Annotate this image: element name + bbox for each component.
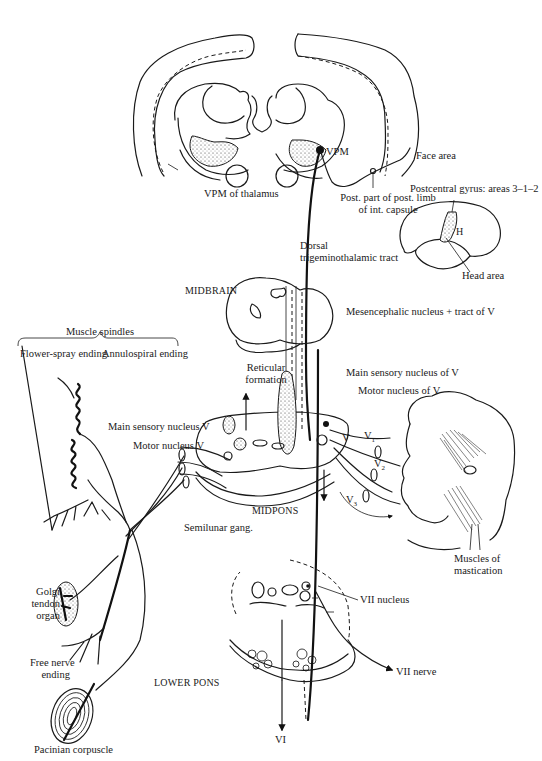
label-dorsal-line1: Dorsal — [300, 240, 398, 252]
label-dorsal-trigeminothalamic-tract: Dorsal trigeminothalamic tract — [300, 240, 398, 264]
label-face-area: Face area — [416, 150, 456, 162]
label-vpm: VPM — [326, 146, 349, 158]
label-nerve-v2-base: V — [374, 458, 382, 469]
label-free-nerve-ending: Free nerve ending — [30, 657, 70, 681]
label-nerve-v1-base: V — [364, 430, 372, 441]
label-vpm-of-thalamus: VPM of thalamus — [204, 188, 279, 200]
label-reticular-formation: Reticular formation — [236, 362, 296, 386]
label-muscles-line1: Muscles of — [454, 553, 502, 565]
label-nerve-v: V — [342, 432, 350, 444]
label-free-nerve-line2: ending — [30, 669, 70, 681]
label-free-nerve-line1: Free nerve — [30, 657, 70, 669]
label-mesencephalic-nucleus: Mesencephalic nucleus + tract of V — [346, 306, 495, 318]
label-reticular-line2: formation — [236, 374, 296, 386]
label-annulospiral-ending: Annulospiral ending — [102, 348, 188, 360]
label-flower-spray-ending: Flower-spray ending — [20, 348, 107, 360]
label-golgi-line3: organ — [26, 610, 60, 622]
label-golgi-tendon-organ: Golgi tendon organ — [26, 586, 60, 622]
label-nerve-v1: V1 — [364, 430, 375, 446]
label-motor-nucleus-v: Motor nucleus V — [133, 440, 204, 452]
label-golgi-line2: tendon — [26, 598, 60, 610]
label-muscles-line2: mastication — [454, 565, 502, 577]
label-postcentral-gyrus: Postcentral gyrus: areas 3–1–2 — [410, 183, 539, 195]
label-nerve-v3-base: V — [346, 494, 354, 505]
label-nerve-v2: V2 — [374, 458, 385, 474]
label-main-sensory-nucleus-v: Main sensory nucleus V — [108, 421, 210, 433]
label-h-marker: H — [456, 226, 463, 238]
label-reticular-line1: Reticular — [236, 362, 296, 374]
pacinian-corpuscle-shape — [44, 683, 99, 749]
label-internal-capsule: Post. part of post. limb of int. capsule — [318, 192, 458, 216]
descending-tract — [308, 350, 318, 720]
label-muscles-of-mastication: Muscles of mastication — [454, 553, 502, 577]
lower-pons-section — [230, 560, 392, 730]
label-lower-pons: LOWER PONS — [154, 677, 220, 689]
label-nerve-v3: V3 — [346, 494, 357, 510]
label-main-sensory-nucleus-of-v: Main sensory nucleus of V — [346, 367, 459, 379]
face-profile — [401, 392, 514, 550]
vpm-left-stipple — [190, 136, 238, 166]
label-pacinian-corpuscle: Pacinian corpuscle — [34, 744, 113, 756]
label-vii-nucleus: VII nucleus — [360, 594, 409, 606]
label-semilunar-ganglion: Semilunar gang. — [184, 522, 253, 534]
label-vi: VI — [275, 734, 286, 746]
label-internal-capsule-line2: of int. capsule — [318, 204, 458, 216]
label-nerve-v2-sub: 2 — [382, 464, 386, 472]
label-golgi-line1: Golgi — [26, 586, 60, 598]
label-muscle-spindles: Muscle spindles — [40, 326, 160, 338]
label-midbrain: MIDBRAIN — [185, 285, 237, 297]
label-motor-nucleus-of-v: Motor nucleus of V — [358, 385, 440, 397]
label-nerve-v3-sub: 3 — [354, 500, 358, 508]
trigeminal-pathway-diagram: VPM of thalamus VPM Face area Post. part… — [0, 0, 542, 761]
forebrain-section — [133, 34, 418, 188]
label-vii-nerve: VII nerve — [396, 666, 437, 678]
label-midpons: MIDPONS — [252, 505, 298, 517]
label-nerve-v1-sub: 1 — [372, 436, 376, 444]
label-head-area: Head area — [462, 270, 504, 282]
label-dorsal-line2: trigeminothalamic tract — [300, 252, 398, 264]
